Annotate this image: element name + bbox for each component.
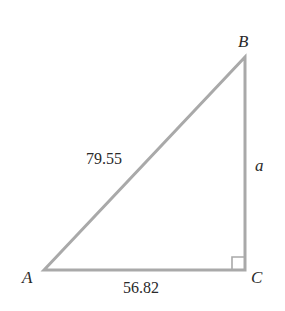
base-length-label: 56.82	[123, 279, 159, 296]
triangle-abc	[44, 57, 245, 270]
vertex-label-c: C	[251, 268, 263, 287]
hypotenuse-length-label: 79.55	[86, 150, 122, 167]
vertex-label-b: B	[238, 32, 249, 51]
triangle-diagram: B A C 79.55 a 56.82	[0, 0, 285, 311]
right-angle-marker	[232, 257, 245, 270]
vertex-label-a: A	[21, 268, 33, 287]
side-a-label: a	[255, 156, 264, 175]
